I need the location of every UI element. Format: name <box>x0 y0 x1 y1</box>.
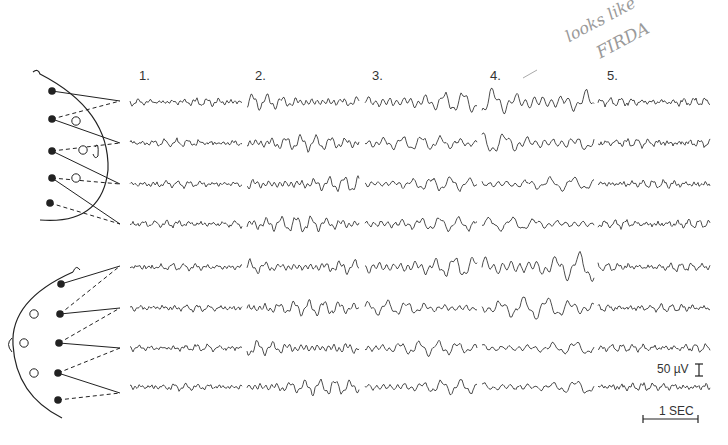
eeg-trace-row4-col2 <box>247 216 359 232</box>
electrode-open <box>30 310 38 318</box>
eeg-trace-row8-col4 <box>482 382 594 394</box>
eeg-figure: 1. 2. 3. 4. 5. looks like FIRDA 50 µV 1 … <box>0 0 728 445</box>
eeg-trace-row2-col4 <box>482 133 594 151</box>
electrode-filled <box>57 280 65 288</box>
electrode-open <box>20 339 28 347</box>
eeg-trace-row6-col4 <box>482 297 594 319</box>
eeg-trace-row1-col1 <box>130 98 242 107</box>
electrode-open <box>72 174 80 182</box>
column-label-5: 5. <box>607 68 618 83</box>
nose-icon <box>73 267 80 272</box>
time-scale-label: 1 SEC <box>659 404 694 418</box>
montage-line <box>52 119 120 143</box>
eeg-trace-row3-col1 <box>130 180 242 188</box>
eeg-trace-row8-col3 <box>365 380 477 395</box>
eeg-trace-row6-col1 <box>130 305 242 312</box>
eeg-trace-row5-col5 <box>598 263 710 272</box>
eeg-trace-row1-col3 <box>365 92 477 112</box>
eeg-trace-row3-col2 <box>247 176 359 192</box>
eeg-trace-row6-col3 <box>365 300 477 315</box>
eeg-trace-row1-col2 <box>247 94 359 110</box>
montage-line <box>59 343 120 348</box>
electrode-filled <box>55 339 63 347</box>
eeg-trace-row4-col1 <box>130 220 242 229</box>
eeg-trace-row6-col2 <box>247 300 359 317</box>
eeg-canvas <box>0 0 728 445</box>
ear-icon <box>9 338 13 352</box>
eeg-trace-row3-col5 <box>598 180 710 189</box>
electrode-filled <box>46 199 54 207</box>
eeg-trace-row3-col3 <box>365 177 477 192</box>
eeg-trace-row2-col2 <box>247 134 359 152</box>
montage-line <box>61 266 120 284</box>
eeg-trace-row7-col5 <box>598 344 710 353</box>
montage-line-dashed <box>58 348 120 373</box>
eeg-trace-row6-col5 <box>598 304 710 313</box>
montage-line <box>52 178 120 224</box>
eeg-trace-row5-col4 <box>482 251 594 281</box>
eeg-trace-row5-col2 <box>247 259 359 275</box>
eeg-trace-row5-col3 <box>365 257 477 276</box>
montage-line-dashed <box>58 393 120 400</box>
eeg-trace-row7-col1 <box>130 344 242 352</box>
electrode-open <box>30 369 38 377</box>
eeg-trace-row3-col4 <box>482 176 594 191</box>
eeg-trace-row8-col1 <box>130 383 242 391</box>
electrode-filled <box>48 147 56 155</box>
electrode-open <box>79 146 87 154</box>
eeg-trace-row1-col4 <box>482 88 594 114</box>
eeg-trace-row5-col1 <box>130 263 242 271</box>
voltage-scale-label: 50 µV <box>657 362 689 376</box>
column-label-1: 1. <box>139 68 150 83</box>
eeg-trace-row4-col4 <box>482 217 594 232</box>
electrode-open <box>72 117 80 125</box>
column-label-2: 2. <box>255 68 266 83</box>
eeg-trace-row2-col1 <box>130 138 242 147</box>
eeg-trace-row8-col5 <box>598 383 710 391</box>
eeg-trace-row7-col2 <box>247 341 359 356</box>
eeg-trace-row7-col4 <box>482 342 594 354</box>
column-label-4: 4. <box>490 68 501 83</box>
montage-line-dashed <box>52 101 120 119</box>
montage-line <box>52 91 120 101</box>
electrode-filled <box>48 87 56 95</box>
montage-line-dashed <box>50 203 120 224</box>
electrode-filled <box>48 115 56 123</box>
ear-icon <box>93 145 98 158</box>
montage-line <box>58 373 120 393</box>
eeg-trace-row2-col3 <box>365 135 477 150</box>
electrode-filled <box>48 174 56 182</box>
eeg-trace-row7-col3 <box>365 340 477 356</box>
eeg-trace-row4-col3 <box>365 217 477 232</box>
eeg-trace-row2-col5 <box>598 139 710 149</box>
column-label-3: 3. <box>372 68 383 83</box>
eeg-trace-row8-col2 <box>247 379 359 396</box>
electrode-filled <box>54 369 62 377</box>
electrode-filled <box>56 310 64 318</box>
eeg-trace-row1-col5 <box>598 98 710 108</box>
electrode-filled <box>54 396 62 404</box>
eeg-trace-row4-col5 <box>598 219 710 229</box>
annotation-dash <box>523 70 537 78</box>
